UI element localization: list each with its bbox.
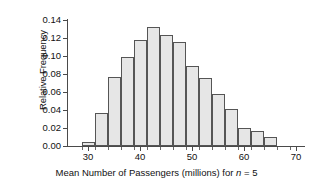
histogram-bar [108, 77, 121, 146]
histogram-bar [147, 27, 160, 146]
histogram-bar [251, 131, 264, 146]
histogram-bar [82, 142, 95, 146]
histogram-bars [0, 0, 313, 190]
histogram-bar [238, 128, 251, 146]
histogram-bar [121, 57, 134, 146]
histogram-bar [225, 109, 238, 146]
x-axis-label-pre: Mean Number of Passengers (millions) for [56, 167, 237, 178]
x-axis-label: Mean Number of Passengers (millions) for… [0, 167, 313, 178]
histogram-bar [160, 35, 173, 146]
histogram-bar [264, 137, 277, 146]
x-axis-label-post: = 5 [241, 167, 257, 178]
histogram-bar [199, 78, 212, 146]
histogram-bar [186, 66, 199, 146]
histogram-chart: Relative Frequency 0.000.020.040.060.080… [0, 0, 313, 190]
histogram-bar [212, 94, 225, 146]
histogram-bar [134, 40, 147, 146]
histogram-bar [173, 42, 186, 146]
histogram-bar [95, 113, 108, 146]
